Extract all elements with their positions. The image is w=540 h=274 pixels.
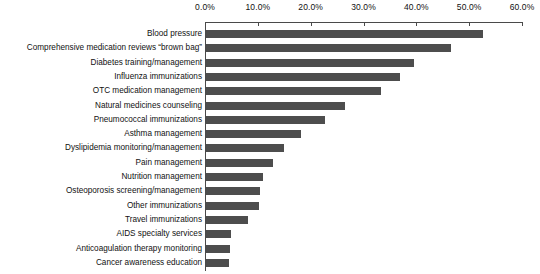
- category-label: Influenza immunizations: [114, 71, 202, 82]
- category-label: Travel immunizations: [125, 214, 202, 225]
- axis-tick-label: 40.0%: [404, 2, 429, 12]
- bar-row: Influenza immunizations: [0, 70, 540, 84]
- bar-row: Comprehensive medication reviews “brown …: [0, 41, 540, 55]
- bar: [206, 116, 325, 124]
- category-label: Asthma management: [124, 128, 202, 139]
- category-label: Cancer awareness education: [96, 257, 202, 268]
- bar-row: Dyslipidemia monitoring/management: [0, 141, 540, 155]
- bar: [206, 59, 414, 67]
- bar: [206, 73, 400, 81]
- category-label: Natural medicines counseling: [95, 100, 202, 111]
- bar: [206, 144, 284, 152]
- category-label: OTC medication management: [93, 85, 202, 96]
- category-label: AIDS specialty services: [116, 228, 202, 239]
- bar: [206, 102, 345, 110]
- bar-row: Nutrition management: [0, 170, 540, 184]
- bar-row: Natural medicines counseling: [0, 99, 540, 113]
- bar-row: Other immunizations: [0, 199, 540, 213]
- axis-tick-label: 20.0%: [298, 2, 323, 12]
- bar: [206, 159, 273, 167]
- category-label: Blood pressure: [147, 28, 202, 39]
- category-label: Diabetes training/management: [90, 57, 202, 68]
- bar-row: Osteoporosis screening/management: [0, 184, 540, 198]
- bar: [206, 130, 301, 138]
- bar-row: Travel immunizations: [0, 213, 540, 227]
- bar: [206, 187, 260, 195]
- axis-tick-label: 30.0%: [351, 2, 376, 12]
- bar: [206, 259, 229, 267]
- category-label: Osteoporosis screening/management: [66, 185, 202, 196]
- bar-row: OTC medication management: [0, 84, 540, 98]
- axis-tick-label: 60.0%: [510, 2, 535, 12]
- bar-row: Diabetes training/management: [0, 56, 540, 70]
- bar-row: AIDS specialty services: [0, 227, 540, 241]
- horizontal-bar-chart: 0.0%10.0%20.0%30.0%40.0%50.0%60.0% Blood…: [0, 0, 540, 274]
- bar-row: Anticoagulation therapy monitoring: [0, 242, 540, 256]
- category-label: Pain management: [136, 157, 202, 168]
- bar: [206, 30, 483, 38]
- bar: [206, 216, 248, 224]
- bar-row: Pneumococcal immunizations: [0, 113, 540, 127]
- category-label: Comprehensive medication reviews “brown …: [27, 42, 202, 53]
- category-label: Nutrition management: [121, 171, 202, 182]
- bar: [206, 87, 381, 95]
- category-label: Other immunizations: [127, 200, 202, 211]
- bar: [206, 202, 259, 210]
- bar-row: Pain management: [0, 156, 540, 170]
- bar-row: Cancer awareness education: [0, 256, 540, 270]
- category-label: Dyslipidemia monitoring/management: [65, 142, 202, 153]
- bar: [206, 230, 231, 238]
- bar: [206, 173, 263, 181]
- plot-area: Blood pressureComprehensive medication r…: [0, 23, 540, 274]
- bar-row: Blood pressure: [0, 27, 540, 41]
- category-label: Anticoagulation therapy monitoring: [76, 243, 202, 254]
- bar-row: Asthma management: [0, 127, 540, 141]
- axis-tick-label: 50.0%: [457, 2, 482, 12]
- bar: [206, 245, 230, 253]
- axis-tick-label: 10.0%: [246, 2, 271, 12]
- category-label: Pneumococcal immunizations: [94, 114, 202, 125]
- axis-tick-label: 0.0%: [195, 2, 215, 12]
- bar: [206, 44, 451, 52]
